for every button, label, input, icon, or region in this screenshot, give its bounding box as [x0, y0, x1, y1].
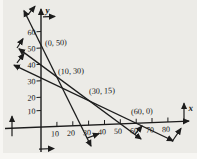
y-tick-label: 40 — [28, 61, 36, 70]
x-tick-label: 80 — [162, 125, 170, 134]
constraint-line-2 — [19, 44, 141, 144]
x-tick-label: 40 — [98, 127, 106, 136]
feasible-arrow-icon — [39, 148, 54, 149]
y-tick-label: 30 — [28, 77, 36, 86]
feasible-arrow-icon — [28, 6, 35, 14]
feasible-arrow-icon — [17, 39, 23, 48]
point-label-30-15: (30, 15) — [89, 86, 115, 96]
y-tick-label: 20 — [28, 93, 36, 102]
feasible-arrow-icon — [17, 54, 24, 63]
x-tick-label: 50 — [114, 127, 122, 136]
x-tick-label: 30 — [83, 128, 91, 137]
y-tick-label: 60 — [28, 28, 36, 37]
plot-canvas: y x 10 20 30 40 50 60 70 80 10 20 30 40 … — [0, 0, 197, 159]
x-tick-label: 60 — [130, 126, 138, 135]
point-label-10-30: (10, 30) — [58, 66, 84, 76]
x-tick-label: 70 — [146, 125, 154, 134]
lp-graph-figure: y x 10 20 30 40 50 60 70 80 10 20 30 40 … — [0, 0, 197, 159]
x-tick-labels: 10 20 30 40 50 60 70 80 — [51, 125, 170, 139]
point-label-60-0: (60, 0) — [131, 107, 153, 117]
x-tick-label: 10 — [51, 129, 59, 138]
feasible-arrow-icon — [172, 128, 181, 141]
y-tick-label: 10 — [28, 107, 36, 116]
y-tick-label: 50 — [28, 44, 36, 53]
x-tick-label: 20 — [67, 129, 75, 138]
x-axis-label: x — [188, 103, 194, 113]
y-axis-label: y — [45, 5, 51, 15]
point-label-0-50: (0, 50) — [45, 38, 67, 48]
corner-point-labels: (0, 50) (10, 30) (30, 15) (60, 0) — [45, 35, 153, 120]
plot-area: y x 10 20 30 40 50 60 70 80 10 20 30 40 … — [5, 0, 193, 153]
